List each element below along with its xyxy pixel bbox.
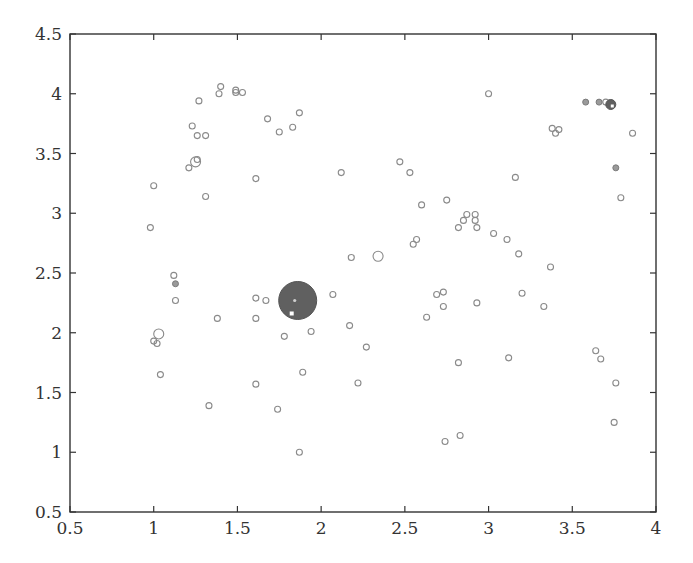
y-tick-label: 1.5 bbox=[35, 383, 62, 403]
x-tick-label: 1 bbox=[148, 518, 159, 538]
data-point-points bbox=[434, 292, 440, 298]
x-tick-label: 3.5 bbox=[559, 518, 586, 538]
data-point-larger-open bbox=[191, 157, 201, 167]
data-point-points bbox=[151, 183, 157, 189]
data-point-points bbox=[296, 110, 302, 116]
data-point-points bbox=[442, 438, 448, 444]
plot-border bbox=[70, 34, 656, 512]
data-point-points bbox=[440, 303, 446, 309]
data-point-filled-small bbox=[596, 99, 602, 105]
data-point-points bbox=[407, 170, 413, 176]
data-point-points bbox=[460, 217, 466, 223]
x-tick-label: 3 bbox=[483, 518, 494, 538]
x-axis: 0.511.522.533.54 bbox=[56, 34, 661, 538]
data-point-points bbox=[414, 237, 420, 243]
data-point-points bbox=[516, 251, 522, 257]
y-tick-label: 2.5 bbox=[35, 263, 62, 283]
data-point-points bbox=[486, 91, 492, 97]
data-point-points bbox=[472, 217, 478, 223]
data-points bbox=[147, 84, 635, 456]
data-point-points bbox=[363, 344, 369, 350]
data-point-points bbox=[276, 129, 282, 135]
data-point-points bbox=[506, 355, 512, 361]
data-point-points bbox=[147, 225, 153, 231]
plot-frame bbox=[70, 34, 656, 512]
y-tick-label: 4.5 bbox=[35, 24, 62, 44]
data-point-points bbox=[397, 159, 403, 165]
y-tick-label: 4 bbox=[51, 84, 62, 104]
data-point-points bbox=[474, 300, 480, 306]
data-point-points bbox=[455, 360, 461, 366]
data-point-filled-small bbox=[172, 281, 178, 287]
data-point-points bbox=[290, 124, 296, 130]
data-point-points bbox=[171, 272, 177, 278]
data-point-points bbox=[455, 225, 461, 231]
data-point-points bbox=[464, 211, 470, 217]
data-point-points bbox=[296, 449, 302, 455]
data-point-points bbox=[618, 195, 624, 201]
highlight-square bbox=[611, 105, 614, 108]
data-point-points bbox=[444, 197, 450, 203]
data-point-points bbox=[253, 381, 259, 387]
data-point-larger-open bbox=[154, 329, 164, 339]
data-point-points bbox=[275, 406, 281, 412]
data-point-points bbox=[598, 356, 604, 362]
data-point-points bbox=[541, 303, 547, 309]
data-point-points bbox=[206, 403, 212, 409]
y-axis: 0.511.522.533.544.5 bbox=[35, 24, 656, 522]
data-point-points bbox=[424, 314, 430, 320]
data-point-points bbox=[216, 91, 222, 97]
data-point-points bbox=[355, 380, 361, 386]
data-point-points bbox=[348, 254, 354, 260]
data-point-points bbox=[611, 419, 617, 425]
data-point-points bbox=[189, 123, 195, 129]
data-point-points bbox=[233, 90, 239, 96]
data-point-points bbox=[157, 372, 163, 378]
data-point-points bbox=[330, 292, 336, 298]
data-point-points bbox=[214, 315, 220, 321]
data-point-points bbox=[491, 231, 497, 237]
x-tick-label: 2 bbox=[316, 518, 327, 538]
data-point-points bbox=[504, 237, 510, 243]
data-point-points bbox=[203, 133, 209, 139]
y-tick-label: 2 bbox=[51, 323, 62, 343]
data-point-points bbox=[630, 130, 636, 136]
data-point-points bbox=[457, 433, 463, 439]
data-point-points bbox=[218, 84, 224, 90]
x-tick-label: 4 bbox=[651, 518, 662, 538]
data-point-points bbox=[154, 341, 160, 347]
data-point-dark-large bbox=[279, 281, 317, 319]
data-point-points bbox=[300, 369, 306, 375]
y-tick-label: 3.5 bbox=[35, 144, 62, 164]
scatter-chart: 0.511.522.533.54 0.511.522.533.544.5 bbox=[0, 0, 693, 563]
data-point-points bbox=[253, 315, 259, 321]
data-point-filled-small bbox=[583, 99, 589, 105]
data-point-points bbox=[253, 176, 259, 182]
x-tick-label: 2.5 bbox=[391, 518, 418, 538]
data-point-points bbox=[203, 194, 209, 200]
data-point-points bbox=[347, 323, 353, 329]
data-point-points bbox=[186, 165, 192, 171]
data-point-points bbox=[172, 297, 178, 303]
data-point-points bbox=[419, 202, 425, 208]
data-point-points bbox=[519, 290, 525, 296]
data-point-points bbox=[308, 329, 314, 335]
data-point-points bbox=[556, 127, 562, 133]
data-point-points bbox=[263, 297, 269, 303]
data-point-points bbox=[253, 295, 259, 301]
data-point-larger-open bbox=[373, 251, 383, 261]
data-point-points bbox=[338, 170, 344, 176]
y-tick-label: 3 bbox=[51, 203, 62, 223]
data-point-points bbox=[474, 225, 480, 231]
data-point-points bbox=[613, 380, 619, 386]
data-point-points bbox=[472, 211, 478, 217]
data-point-points bbox=[194, 133, 200, 139]
data-point-points bbox=[196, 98, 202, 104]
x-tick-label: 1.5 bbox=[224, 518, 251, 538]
y-tick-label: 0.5 bbox=[35, 502, 62, 522]
highlight-dot bbox=[293, 299, 296, 302]
data-point-points bbox=[281, 333, 287, 339]
highlight-square bbox=[290, 311, 294, 315]
y-tick-label: 1 bbox=[51, 442, 62, 462]
data-point-points bbox=[548, 264, 554, 270]
